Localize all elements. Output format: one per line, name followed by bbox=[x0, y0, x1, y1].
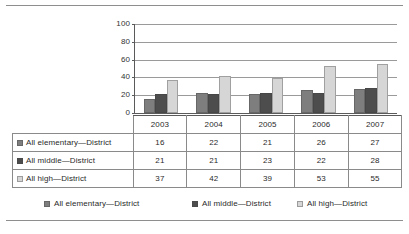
table-cell: 37 bbox=[133, 170, 187, 188]
bar-group bbox=[240, 24, 292, 113]
bar-group bbox=[135, 24, 187, 113]
table-cell: 23 bbox=[241, 152, 295, 170]
legend-color-swatch-icon bbox=[297, 201, 303, 207]
table-row-label: All middle—District bbox=[26, 156, 95, 165]
bar bbox=[196, 93, 208, 113]
bar bbox=[365, 88, 377, 113]
gridline bbox=[135, 113, 397, 114]
chart-figure: 020406080100 20032004200520062007All ele… bbox=[0, 0, 409, 234]
bar bbox=[219, 76, 231, 113]
bar bbox=[208, 94, 220, 113]
bar bbox=[144, 99, 156, 113]
legend-item-label: All elementary—District bbox=[54, 199, 139, 208]
legend-item: All high—District bbox=[297, 199, 367, 209]
table-row: All middle—District2121232228 bbox=[13, 152, 402, 170]
legend-item: All elementary—District bbox=[44, 199, 139, 209]
bar bbox=[272, 78, 284, 113]
legend-color-swatch-icon bbox=[192, 201, 198, 207]
legend-item-label: All high—District bbox=[307, 199, 367, 208]
y-axis-tick-label: 80 bbox=[104, 38, 130, 46]
series-color-swatch-icon bbox=[17, 158, 23, 164]
bar bbox=[324, 66, 336, 113]
table-cell: 21 bbox=[133, 152, 187, 170]
table-column-header: 2006 bbox=[294, 116, 348, 134]
table-column-header: 2004 bbox=[187, 116, 241, 134]
table-column-header: 2007 bbox=[348, 116, 402, 134]
table-cell: 55 bbox=[348, 170, 402, 188]
table-column-header: 2003 bbox=[133, 116, 187, 134]
chart-legend: All elementary—DistrictAll middle—Distri… bbox=[44, 199, 374, 211]
series-color-swatch-icon bbox=[17, 140, 23, 146]
plot-frame bbox=[134, 24, 396, 113]
table-row-header: All middle—District bbox=[13, 152, 134, 170]
table-cell: 22 bbox=[294, 152, 348, 170]
bar bbox=[301, 90, 313, 113]
bar-group bbox=[292, 24, 344, 113]
table-row: All elementary—District1622212627 bbox=[13, 134, 402, 152]
bar bbox=[260, 93, 272, 113]
bar bbox=[354, 89, 366, 113]
top-divider bbox=[6, 5, 403, 6]
plot-area: 020406080100 bbox=[104, 18, 396, 116]
bar bbox=[377, 64, 389, 113]
table-cell: 22 bbox=[187, 134, 241, 152]
table-row-header: All high—District bbox=[13, 170, 134, 188]
bar-group bbox=[345, 24, 397, 113]
y-axis-tick-label: 100 bbox=[104, 20, 130, 28]
table-cell: 26 bbox=[294, 134, 348, 152]
legend-item-label: All middle—District bbox=[202, 199, 271, 208]
table-row-label: All elementary—District bbox=[26, 138, 111, 147]
data-table: 20032004200520062007All elementary—Distr… bbox=[12, 115, 402, 188]
y-axis-tick-label: 40 bbox=[104, 73, 130, 81]
table-cell: 53 bbox=[294, 170, 348, 188]
y-axis-tick-label: 60 bbox=[104, 56, 130, 64]
table-header-row: 20032004200520062007 bbox=[13, 116, 402, 134]
y-axis-tickmark bbox=[132, 113, 135, 114]
table-cell: 21 bbox=[187, 152, 241, 170]
table-row-header: All elementary—District bbox=[13, 134, 134, 152]
table-cell: 16 bbox=[133, 134, 187, 152]
y-axis-tick-labels: 020406080100 bbox=[104, 18, 130, 116]
table-cell: 28 bbox=[348, 152, 402, 170]
table-column-header: 2005 bbox=[241, 116, 295, 134]
bar-group bbox=[187, 24, 239, 113]
bottom-divider bbox=[6, 220, 403, 221]
table-cell: 21 bbox=[241, 134, 295, 152]
bars-layer bbox=[135, 24, 397, 113]
table-cell: 39 bbox=[241, 170, 295, 188]
bar bbox=[155, 94, 167, 113]
legend-color-swatch-icon bbox=[44, 201, 50, 207]
bar bbox=[249, 94, 261, 113]
table-row-label: All high—District bbox=[26, 174, 86, 183]
table-cell: 42 bbox=[187, 170, 241, 188]
table-corner-cell bbox=[13, 116, 134, 134]
legend-item: All middle—District bbox=[192, 199, 271, 209]
bar bbox=[313, 93, 325, 113]
series-color-swatch-icon bbox=[17, 176, 23, 182]
table-cell: 27 bbox=[348, 134, 402, 152]
table-row: All high—District3742395355 bbox=[13, 170, 402, 188]
bar bbox=[167, 80, 179, 113]
y-axis-tick-label: 20 bbox=[104, 91, 130, 99]
